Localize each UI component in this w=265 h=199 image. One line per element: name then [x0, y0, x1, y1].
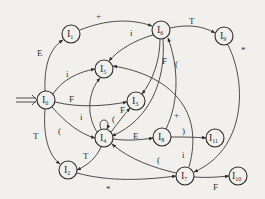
edge-I9-I7 [194, 45, 239, 172]
edge-label-I0-I1: E [37, 48, 43, 58]
edge-I7-I5 [113, 66, 193, 167]
edge-label-I4-I4: ( [112, 114, 115, 124]
edge-I6-I5 [109, 35, 153, 61]
edge-I6-I9 [170, 26, 215, 33]
edge-label-I0-I2: T [33, 131, 39, 141]
edge-I7-I10 [194, 176, 229, 177]
edge-I0-I2 [45, 109, 60, 164]
state-I6: I6 [152, 21, 170, 39]
state-I2: I2 [59, 161, 77, 179]
edge-I0-I1 [45, 40, 63, 91]
edge-I7-I4 [112, 144, 176, 173]
edge-label-I7-I5: i [182, 150, 185, 160]
edge-label-I4-I5: i [80, 112, 83, 122]
state-I11: I11 [206, 129, 224, 147]
state-I5: I5 [95, 60, 113, 78]
edge-label-I6-I4: ( [175, 59, 178, 69]
state-I7: I7 [176, 167, 194, 185]
edge-label-I0-I5: i [66, 69, 69, 79]
edge-I4-I2 [77, 147, 101, 170]
edge-I0-I5 [53, 69, 95, 94]
edge-label-I0-I4: ( [58, 126, 61, 136]
diagram-svg: E i F ( T + T i F ( * i F ( E T + ) * ( … [0, 0, 265, 199]
state-I8: I8 [153, 128, 171, 146]
edge-label-I6-I5: i [130, 28, 133, 38]
state-I9: I9 [215, 27, 233, 45]
edge-label-I8-I6: + [174, 110, 179, 120]
edge-I1-I6 [80, 21, 152, 30]
edge-I4-I4 [100, 120, 108, 129]
edge-label-I8-I11: ) [182, 126, 185, 136]
edge-label-I4-I8: E [133, 131, 139, 141]
edge-I2-I7 [77, 173, 176, 179]
edge-label-I6-I9: T [189, 16, 195, 26]
automaton-diagram: E i F ( T + T i F ( * i F ( E T + ) * ( … [0, 0, 265, 199]
edge-I0-I3 [55, 102, 127, 106]
state-I0: I0 [37, 91, 55, 109]
state-I4: I4 [95, 129, 113, 147]
edge-label-I2-I7: * [106, 184, 111, 194]
edge-label-I7-I4: ( [157, 155, 160, 165]
start-arrow [16, 95, 37, 105]
state-I1: I1 [62, 25, 80, 43]
edge-label-I0-I3: F [69, 94, 74, 104]
edge-label-I6-I3: F [162, 56, 167, 66]
state-I3: I3 [127, 92, 145, 110]
edge-label-I9-I7: * [241, 45, 246, 55]
edge-I8-I11 [171, 137, 206, 138]
edge-label-I1-I6: + [96, 11, 101, 21]
edge-label-I7-I10: F [213, 182, 218, 192]
state-I10: I10 [229, 167, 247, 185]
edge-label-I4-I3: F [120, 105, 125, 115]
edge-label-I4-I2: T [83, 151, 89, 161]
